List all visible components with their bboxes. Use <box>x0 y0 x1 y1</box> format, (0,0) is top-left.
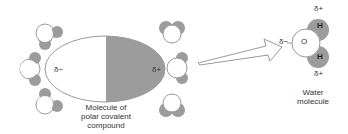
oxygen-label: O <box>301 37 307 46</box>
polar-molecule-negative-label: δ− <box>54 65 63 74</box>
hydrogen-bottom-charge-label: δ+ <box>314 69 323 78</box>
polar-molecule-caption-line3: compound <box>72 121 140 130</box>
water-molecule-left-top <box>36 24 63 50</box>
arrow <box>198 39 282 65</box>
water-molecule-right-bottom <box>159 94 185 117</box>
hydrogen-top-charge-label: δ+ <box>314 4 323 13</box>
oxygen-charge-label: δ− <box>279 37 288 46</box>
hydrogen-bottom-label: H <box>317 52 323 61</box>
water-molecule-right-middle <box>167 52 188 84</box>
water-molecule-caption: Water molecule <box>288 88 338 106</box>
water-molecule-left-middle <box>20 52 41 86</box>
polar-molecule-caption-line1: Molecule of <box>72 103 140 112</box>
polar-molecule-caption: Molecule of polar covalent compound <box>72 103 140 130</box>
water-molecule-right-top <box>159 21 185 43</box>
water-molecule-left-bottom <box>36 88 63 114</box>
diagram-canvas <box>0 0 348 134</box>
hydrogen-top-label: H <box>317 21 323 30</box>
polar-molecule-positive-label: δ+ <box>152 65 161 74</box>
water-molecule-caption-line1: Water <box>288 88 338 97</box>
water-molecule-caption-line2: molecule <box>288 97 338 106</box>
polar-molecule-caption-line2: polar covalent <box>72 112 140 121</box>
